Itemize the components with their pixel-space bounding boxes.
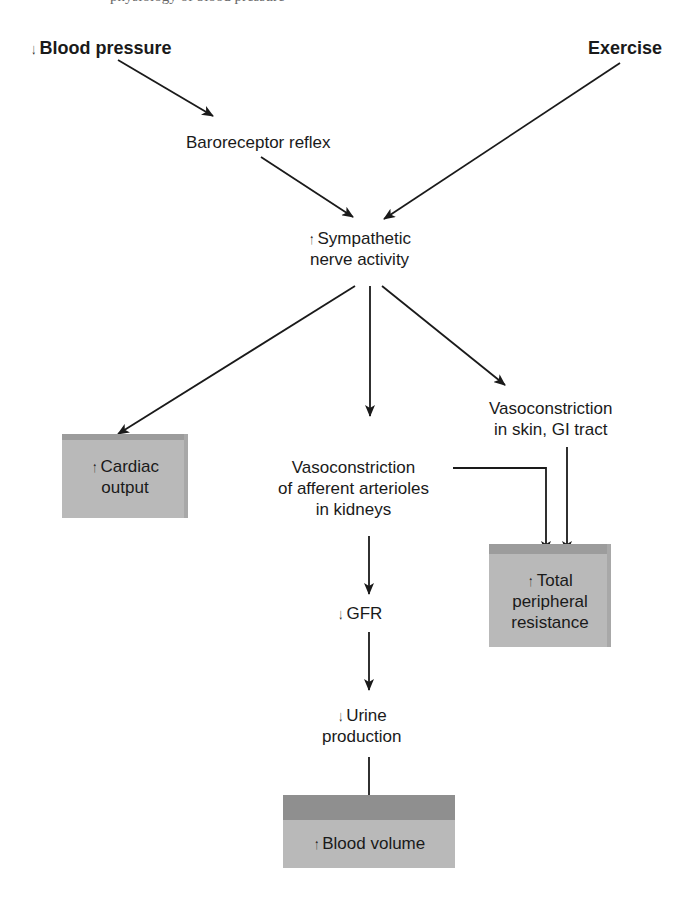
node-gfr: ↓GFR (337, 603, 382, 624)
input-exercise: Exercise (588, 38, 662, 59)
up-arrow-icon: ↑ (314, 833, 319, 854)
node-vasoconstriction-skin: Vasoconstriction in skin, GI tract (489, 398, 612, 440)
down-arrow-icon: ↓ (32, 38, 37, 59)
down-arrow-icon: ↓ (339, 603, 344, 624)
node-vasoconstriction-kidney: Vasoconstriction of afferent arterioles … (278, 457, 429, 520)
up-arrow-icon: ↑ (92, 456, 97, 477)
input-blood-pressure: ↓Blood pressure (30, 38, 172, 59)
node-baroreceptor-reflex: Baroreceptor reflex (186, 132, 331, 153)
down-arrow-icon: ↓ (338, 705, 343, 726)
outcome-total-peripheral-resistance: ↑Total peripheral resistance (489, 544, 611, 647)
up-arrow-icon: ↑ (310, 228, 315, 249)
node-sympathetic-activity: ↑Sympathetic nerve activity (308, 228, 411, 270)
outcome-cardiac-output: ↑Cardiac output (62, 434, 188, 518)
outcome-blood-volume: ↑Blood volume (283, 795, 455, 868)
node-urine-production: ↓Urine production (322, 705, 401, 747)
up-arrow-icon: ↑ (529, 570, 534, 591)
